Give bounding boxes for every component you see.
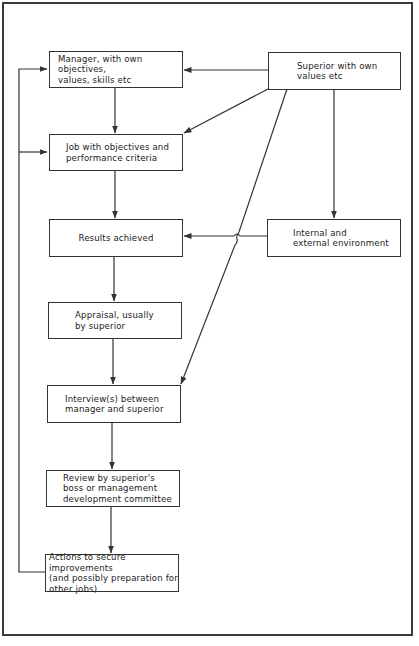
node-job-label: Job with objectives and performance crit… [66,142,169,163]
node-actions: Actions to secure improvements (and poss… [45,554,179,592]
node-interview-label: Interview(s) between manager and superio… [65,394,164,415]
node-manager-label: Manager, with own objectives, values, sk… [58,54,182,86]
node-manager: Manager, with own objectives, values, sk… [49,51,183,88]
node-review-label: Review by superior's boss or management … [63,473,172,505]
node-environment-label: Internal and external environment [293,228,389,249]
node-results: Results achieved [49,219,183,257]
node-appraisal-label: Appraisal, usually by superior [75,310,154,331]
node-environment: Internal and external environment [267,219,401,257]
node-results-label: Results achieved [78,233,153,244]
node-job: Job with objectives and performance crit… [49,134,183,171]
node-superior: Superior with own values etc [268,52,401,90]
node-superior-label: Superior with own values etc [297,61,377,82]
node-appraisal: Appraisal, usually by superior [48,302,182,339]
node-actions-label: Actions to secure improvements (and poss… [49,552,178,594]
node-review: Review by superior's boss or management … [46,470,180,507]
node-interview: Interview(s) between manager and superio… [47,385,181,423]
